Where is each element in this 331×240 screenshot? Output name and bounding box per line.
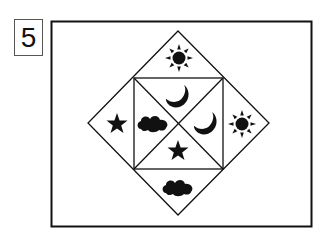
star-icon: [107, 113, 128, 133]
cloud-icon: [163, 180, 193, 196]
sun-icon: [165, 44, 193, 72]
moon-icon: [164, 81, 191, 110]
cloud-icon: [138, 116, 168, 132]
sun-icon: [228, 110, 256, 138]
star-icon: [168, 140, 189, 160]
puzzle-diagram: [0, 0, 331, 240]
moon-icon: [192, 108, 219, 137]
